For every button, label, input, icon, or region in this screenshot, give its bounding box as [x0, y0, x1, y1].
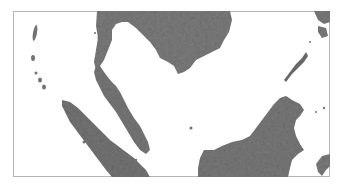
landmass-borneo: [198, 96, 304, 177]
landmass-palawan: [284, 52, 308, 82]
landmass-indochina: [94, 11, 232, 74]
andaman-nicobar-islands: [31, 25, 46, 90]
relief-map: [0, 0, 342, 187]
landmass-philippines-island: [318, 26, 328, 38]
landmass-philippines: [314, 11, 330, 24]
landmass-sulawesi: [316, 154, 330, 176]
